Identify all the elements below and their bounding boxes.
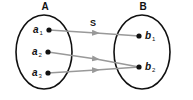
element-a3-base: a — [32, 67, 38, 78]
element-b1: b1 — [136, 30, 156, 42]
element-a2-dot — [45, 49, 50, 54]
svg-text:a3: a3 — [32, 67, 43, 79]
svg-text:a2: a2 — [32, 46, 43, 58]
element-b1-sub: 1 — [152, 36, 156, 42]
element-a2-base: a — [32, 46, 38, 57]
element-a3: a3 — [32, 67, 51, 79]
svg-text:a1: a1 — [33, 24, 44, 36]
element-a1-sub: 1 — [40, 30, 44, 36]
element-b2-sub: 2 — [152, 67, 156, 73]
svg-text:b1: b1 — [145, 30, 156, 42]
arrow-a1-b1 — [49, 30, 139, 36]
svg-text:b2: b2 — [145, 61, 156, 73]
element-a3-dot — [45, 70, 50, 75]
element-a1-base: a — [33, 24, 39, 35]
set-b-ellipse — [114, 15, 170, 89]
element-b1-base: b — [145, 30, 151, 41]
set-b-label: B — [139, 1, 146, 12]
set-a-label: A — [41, 1, 48, 12]
element-a2: a2 — [32, 46, 51, 58]
arrow-a3-b2 — [48, 67, 139, 73]
element-a1-dot — [46, 27, 51, 32]
element-a1: a1 — [33, 24, 52, 36]
arrow-a2-b2 — [48, 52, 139, 67]
element-a2-sub: 2 — [39, 52, 43, 58]
element-a3-sub: 3 — [39, 73, 43, 79]
mapping-label: S — [90, 18, 96, 28]
element-b1-dot — [136, 33, 141, 38]
mapping-diagram: A B S a1 a2 a3 b1 b2 — [0, 0, 193, 100]
element-b2-dot — [136, 64, 141, 69]
element-b2: b2 — [136, 61, 156, 73]
element-b2-base: b — [145, 61, 151, 72]
set-a-ellipse — [16, 15, 72, 89]
